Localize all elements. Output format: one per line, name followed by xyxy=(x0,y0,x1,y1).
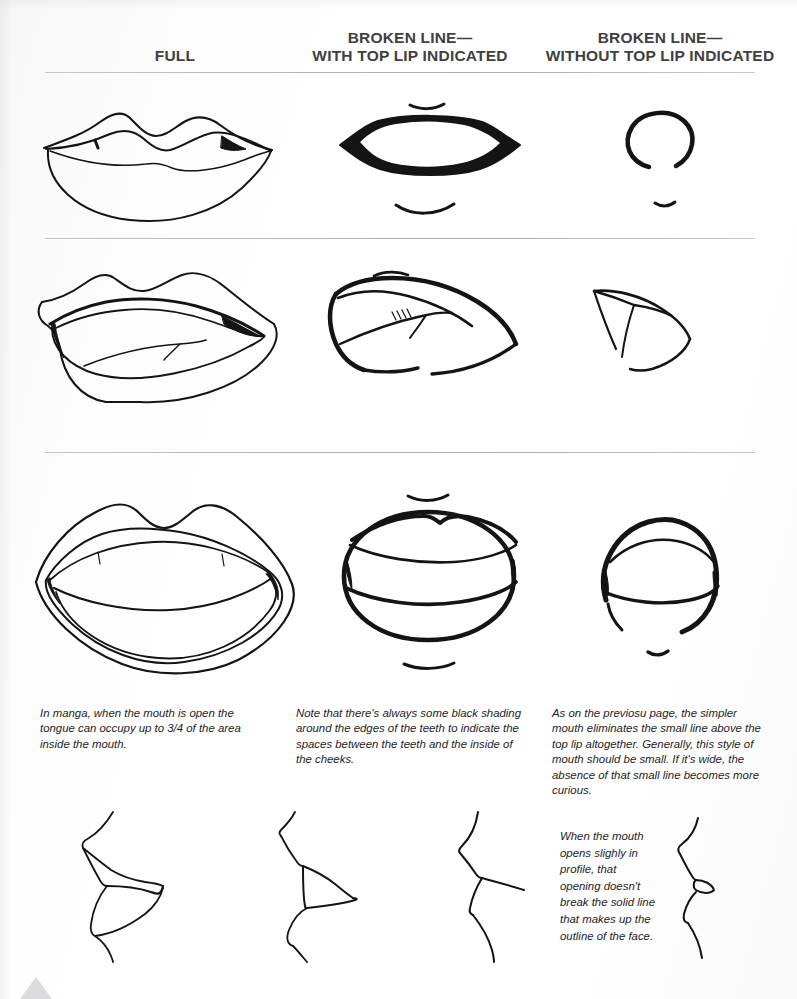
page-edge-shadow-left xyxy=(0,0,12,999)
figure-profile-lips-minimal xyxy=(662,818,742,958)
figure-simple-wide-open-mouth xyxy=(586,500,736,670)
divider-rule-row1 xyxy=(45,238,755,239)
column-header-without-line1: BROKEN LINE— xyxy=(598,29,723,46)
column-header-without-top-lip: BROKEN LINE— WITHOUT TOP LIP INDICATED xyxy=(545,29,775,65)
column-header-with-line1: BROKEN LINE— xyxy=(348,29,473,46)
caption-without-top-lip-column: As on the previosu page, the simpler mou… xyxy=(552,706,768,798)
page-canvas: FULL BROKEN LINE— WITH TOP LIP INDICATED… xyxy=(0,0,797,999)
column-headers: FULL BROKEN LINE— WITH TOP LIP INDICATED… xyxy=(0,0,797,80)
divider-rule-row2 xyxy=(45,452,755,453)
figure-profile-lips-open xyxy=(255,812,415,962)
figure-full-wide-open-lips xyxy=(30,492,300,677)
column-header-full-line1: FULL xyxy=(155,47,195,64)
divider-rule-header xyxy=(45,72,755,73)
figure-profile-lips-full xyxy=(45,812,205,962)
figure-broken-line-closed-mouth xyxy=(330,97,530,222)
caption-with-top-lip-column: Note that there's always some black shad… xyxy=(296,706,528,768)
page-corner-mark xyxy=(20,977,52,999)
caption-full-column: In manga, when the mouth is open the ton… xyxy=(40,706,270,752)
figure-broken-line-open-angled xyxy=(322,270,537,410)
column-header-with-line2: WITH TOP LIP INDICATED xyxy=(300,47,520,65)
figure-simple-open-mouth-angled xyxy=(590,283,720,378)
column-header-full: FULL xyxy=(100,47,250,65)
column-header-without-line2: WITHOUT TOP LIP INDICATED xyxy=(545,47,775,65)
figure-full-open-lips-tongue xyxy=(36,262,291,402)
column-header-with-top-lip: BROKEN LINE— WITH TOP LIP INDICATED xyxy=(300,29,520,65)
figure-profile-lips-simple xyxy=(430,812,580,962)
figure-full-closed-lips xyxy=(38,96,288,226)
figure-simple-open-mouth-small xyxy=(608,104,718,219)
figure-broken-line-wide-open xyxy=(336,490,526,670)
